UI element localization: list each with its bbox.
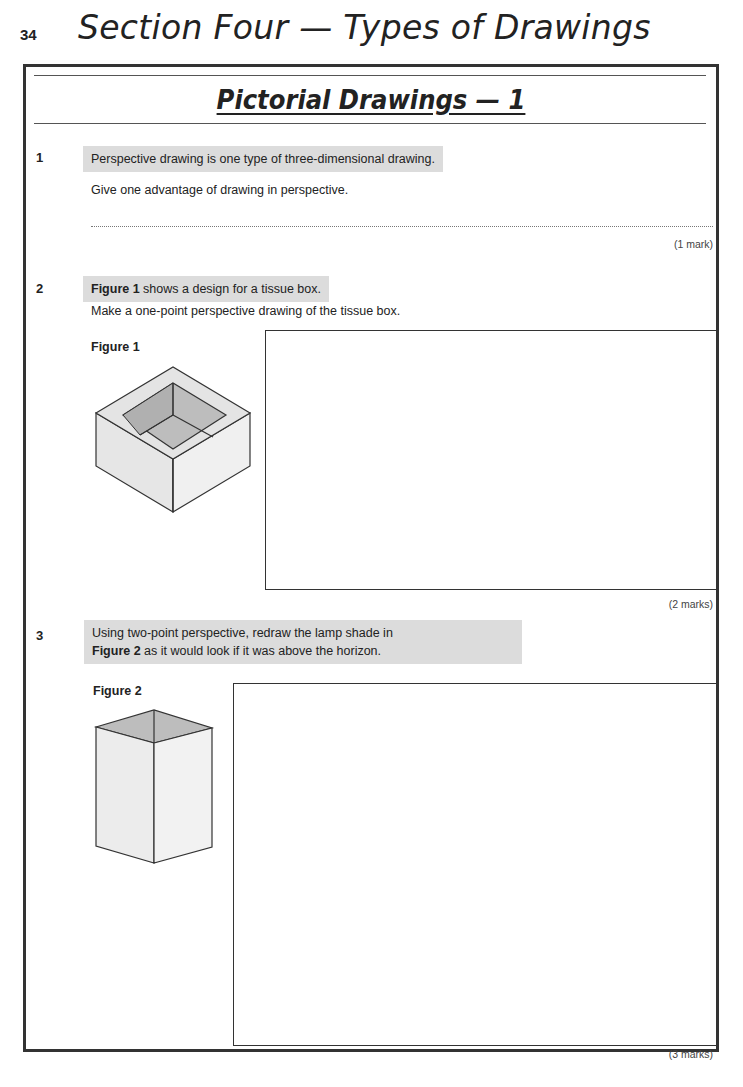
question-2-marks: (2 marks) [600, 598, 713, 610]
question-2-number: 2 [36, 281, 43, 296]
figure-2-ref: Figure 2 [92, 644, 141, 658]
figure-2-label: Figure 2 [93, 684, 142, 698]
question-1-marks: (1 mark) [600, 238, 713, 250]
question-3-drawing-area[interactable] [233, 683, 717, 1046]
question-1-statement: Perspective drawing is one type of three… [83, 146, 443, 172]
tissue-box-figure [90, 350, 260, 520]
question-3-statement-line1: Using two-point perspective, redraw the … [92, 624, 514, 642]
page-title: Pictorial Drawings — 1 [23, 84, 719, 115]
question-2-statement-text: shows a design for a tissue box. [140, 282, 321, 296]
question-2-statement: Figure 1 shows a design for a tissue box… [83, 276, 329, 302]
question-1-prompt: Give one advantage of drawing in perspec… [91, 183, 348, 197]
question-1-answer-line[interactable] [91, 226, 713, 227]
question-3-number: 3 [36, 628, 43, 643]
question-1-number: 1 [36, 150, 43, 165]
lamp-shade-figure [90, 700, 220, 890]
question-2-drawing-area[interactable] [265, 330, 717, 590]
question-3-statement-line2: as it would look if it was above the hor… [141, 644, 381, 658]
figure-1-ref: Figure 1 [91, 282, 140, 296]
title-rule-top [34, 75, 706, 76]
question-3-statement-line2-wrap: Figure 2 as it would look if it was abov… [92, 642, 514, 660]
question-3-statement: Using two-point perspective, redraw the … [84, 620, 522, 664]
section-title: Section Four — Types of Drawings [78, 8, 651, 47]
question-2-prompt: Make a one-point perspective drawing of … [91, 304, 400, 318]
page-number: 34 [20, 26, 37, 43]
title-rule-bottom [34, 123, 706, 124]
question-3-marks: (3 marks) [600, 1048, 713, 1060]
